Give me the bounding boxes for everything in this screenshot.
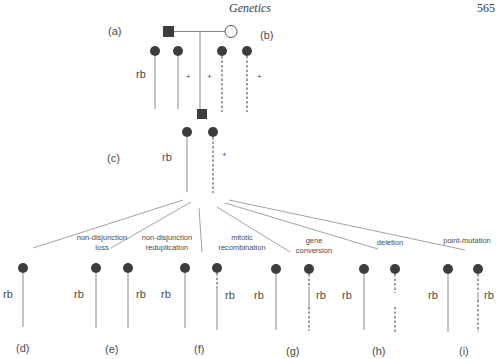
page-number: 565 — [477, 1, 495, 15]
allele-rb-h-1: rb — [342, 289, 352, 301]
mechanism-1-line1: non-disjunction — [77, 233, 127, 242]
label-c: (c) — [107, 152, 120, 164]
allele-plus-c: + — [222, 150, 227, 159]
outcome-f-2 — [212, 263, 222, 330]
allele-rb-f-1: rb — [161, 288, 171, 300]
chromosome-c-rb — [182, 127, 192, 192]
mechanism-3-line1: mitotic — [231, 233, 253, 242]
running-title: Genetics — [229, 1, 271, 15]
outcome-d — [18, 263, 28, 327]
allele-rb-f-2: rb — [225, 289, 235, 301]
chromosome-a-2 — [173, 46, 183, 109]
label-i: (i) — [459, 345, 469, 357]
allele-rb-d: rb — [3, 288, 13, 300]
allele-plus-b-2: + — [257, 72, 262, 81]
genetics-figure: Genetics 565 (a) (b) rb + + + (c) rb + — [0, 0, 499, 359]
outcome-g-2 — [304, 264, 314, 331]
male-affected-symbol — [163, 26, 174, 37]
outcome-h-2 — [390, 264, 400, 332]
mechanism-3-line2: recombination — [218, 243, 265, 252]
mechanism-6-line1: point-mutation — [443, 236, 491, 245]
allele-rb-e-1: rb — [74, 288, 84, 300]
label-d: (d) — [16, 342, 29, 354]
mechanism-4-line2: conversion — [296, 246, 332, 255]
mechanism-4-line1: gene — [306, 236, 323, 245]
chromosome-b-2 — [242, 46, 252, 112]
label-b: (b) — [260, 29, 273, 41]
chromosome-a-1 — [150, 46, 160, 109]
allele-rb-g-1: rb — [254, 289, 264, 301]
outcome-e-1 — [91, 263, 101, 328]
mechanism-2-line2: reduplication — [146, 243, 189, 252]
allele-rb-i-2: rb — [484, 289, 494, 301]
allele-rb-i-1: rb — [428, 289, 438, 301]
female-unaffected-symbol — [225, 26, 237, 38]
chromosome-b-1 — [217, 46, 227, 112]
allele-rb-a: rb — [136, 68, 146, 80]
allele-rb-g-2: rb — [316, 289, 326, 301]
label-g: (g) — [286, 345, 299, 357]
outcome-f-1 — [180, 263, 190, 328]
allele-rb-c: rb — [162, 151, 172, 163]
label-f: (f) — [194, 343, 204, 355]
mechanism-2-line1: non-disjunction — [142, 233, 192, 242]
allele-plus-a: + — [186, 72, 191, 81]
chromosome-c-plus — [208, 127, 218, 193]
label-a: (a) — [108, 25, 121, 37]
offspring-male-symbol — [197, 109, 207, 119]
allele-plus-b-1: + — [207, 72, 212, 81]
outcome-e-2 — [123, 263, 133, 328]
mechanism-1-line2: loss — [95, 243, 109, 252]
label-e: (e) — [105, 343, 118, 355]
outcome-g-1 — [271, 264, 281, 330]
label-h: (h) — [372, 345, 385, 357]
mechanism-5-line1: deletion — [377, 238, 403, 247]
outcome-i-2 — [473, 264, 483, 332]
outcome-i-1 — [443, 264, 453, 332]
outcome-h-1 — [359, 264, 369, 330]
allele-rb-e-2: rb — [136, 288, 146, 300]
